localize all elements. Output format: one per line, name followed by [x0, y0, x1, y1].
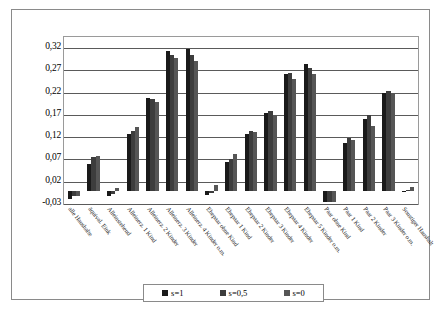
- y-axis-tick-label: 0,32: [27, 42, 61, 52]
- y-axis-tick-label: -0,03: [27, 198, 61, 208]
- legend-swatch-icon: [162, 290, 168, 296]
- bar: [209, 191, 213, 193]
- y-axis-tick-label: 0,27: [27, 64, 61, 74]
- y-axis-tick-label: 0,17: [27, 109, 61, 119]
- plot-area: [63, 36, 419, 205]
- bars-layer: [64, 37, 418, 204]
- bar-group: [123, 37, 143, 204]
- y-axis-tick-label: 0,12: [27, 131, 61, 141]
- legend-label: s=0,5: [229, 289, 248, 298]
- chart-frame: -0,030,020,070,120,170,220,270,32 alle H…: [11, 9, 430, 300]
- bar: [174, 58, 178, 190]
- y-axis-tick-label: 0,02: [27, 176, 61, 186]
- bar: [214, 185, 218, 190]
- bar: [351, 140, 355, 191]
- bar-group: [359, 37, 379, 204]
- bar: [96, 156, 100, 191]
- legend-entry[interactable]: s=0,5: [220, 289, 248, 298]
- bar: [233, 154, 237, 191]
- bar-group: [280, 37, 300, 204]
- legend-label: s=0: [293, 289, 305, 298]
- bar: [135, 127, 139, 190]
- x-axis-labels: alle Haushalteäquival. EinkAlleinstehend…: [63, 206, 419, 286]
- bar: [292, 79, 296, 190]
- bar: [391, 93, 395, 191]
- bar: [155, 102, 159, 190]
- bar-group: [320, 37, 340, 204]
- bar-group: [241, 37, 261, 204]
- gridline: [64, 204, 418, 205]
- bar: [115, 188, 119, 191]
- bar-group: [398, 37, 418, 204]
- legend-entry[interactable]: s=1: [162, 289, 183, 298]
- bar: [332, 191, 336, 203]
- y-axis: -0,030,020,070,120,170,220,270,32: [23, 36, 61, 205]
- legend-entry[interactable]: s=0: [284, 289, 305, 298]
- y-axis-tick-label: 0,22: [27, 87, 61, 97]
- bar: [371, 126, 375, 191]
- bar-group: [143, 37, 163, 204]
- bar: [312, 74, 316, 190]
- bar-group: [182, 37, 202, 204]
- bar: [273, 115, 277, 191]
- bar: [111, 191, 115, 195]
- bar-group: [261, 37, 281, 204]
- bar-group: [339, 37, 359, 204]
- bar: [76, 191, 80, 196]
- legend-swatch-icon: [220, 290, 226, 296]
- bar: [410, 187, 414, 191]
- bar: [253, 132, 257, 191]
- bar-group: [103, 37, 123, 204]
- bar-group: [64, 37, 84, 204]
- chart-legend: s=1s=0,5s=0: [143, 284, 324, 302]
- bar-group: [221, 37, 241, 204]
- y-axis-tick-label: 0,07: [27, 153, 61, 163]
- bar: [194, 61, 198, 191]
- bar-group: [202, 37, 222, 204]
- legend-swatch-icon: [284, 290, 290, 296]
- bar-group: [379, 37, 399, 204]
- bar-group: [162, 37, 182, 204]
- bar-group: [84, 37, 104, 204]
- legend-label: s=1: [171, 289, 183, 298]
- bar-group: [300, 37, 320, 204]
